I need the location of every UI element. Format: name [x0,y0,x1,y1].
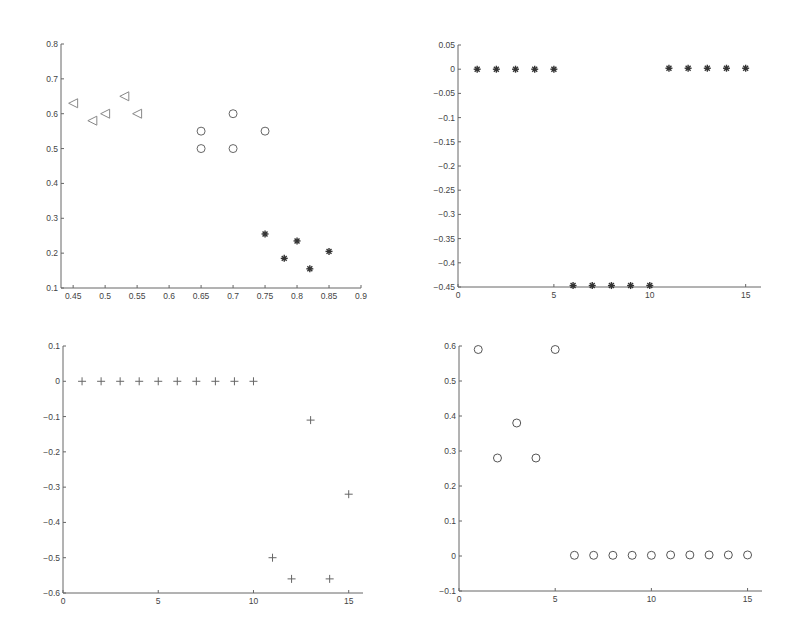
x-tick-label: 0.85 [321,291,338,301]
circle-marker-icon [513,419,521,427]
y-tick-label: 0.4 [444,411,456,421]
series-cluster-2 [197,110,269,153]
x-tick-label: 0.6 [163,291,175,301]
plus-marker-icon [78,377,86,385]
x-tick-label: 15 [344,596,354,606]
y-tick-label: 0.5 [444,376,456,386]
plus-marker-icon [307,416,315,424]
circle-marker-icon [197,145,205,153]
x-tick-label: 5 [552,290,557,300]
subplot-top-right: −0.45−0.4−0.35−0.3−0.25−0.2−0.15−0.1−0.0… [433,40,761,300]
series-values [78,377,353,583]
y-tick-label: −0.1 [43,412,60,422]
star-marker-icon [550,66,557,73]
y-tick-label: 0.1 [444,516,456,526]
star-marker-icon [531,66,538,73]
y-tick-label: −0.4 [43,517,60,527]
circle-marker-icon [590,551,598,559]
x-tick-label: 5 [156,596,161,606]
x-tick-label: 0.65 [193,291,210,301]
y-tick-label: 0.7 [46,74,58,84]
y-tick-label: 0 [450,64,455,74]
y-tick-label: −0.45 [433,282,455,292]
plus-marker-icon [230,377,238,385]
series-values [474,65,749,289]
circle-marker-icon [551,346,559,354]
x-tick-label: 0.7 [227,291,239,301]
subplot-bottom-right: −0.100.10.20.30.40.50.6051015 [439,341,762,604]
triangle-left-marker-icon [69,99,78,108]
star-marker-icon [294,237,301,244]
y-tick-label: 0.8 [46,39,58,49]
y-tick-label: −0.2 [438,161,455,171]
y-tick-label: 0.5 [46,144,58,154]
x-tick-label: 0.5 [99,291,111,301]
y-tick-label: −0.05 [433,88,455,98]
x-tick-label: 0 [61,596,66,606]
y-tick-label: −0.4 [438,258,455,268]
subplot-bottom-left: −0.6−0.5−0.4−0.3−0.2−0.100.1051015 [43,341,363,606]
circle-marker-icon [609,551,617,559]
y-tick-label: −0.2 [43,447,60,457]
x-tick-label: 0 [456,290,461,300]
x-tick-label: 0.45 [65,291,82,301]
plus-marker-icon [173,377,181,385]
star-marker-icon [570,282,577,289]
plus-marker-icon [345,490,353,498]
x-tick-label: 15 [741,290,751,300]
x-tick-label: 0.75 [257,291,274,301]
y-tick-label: 0.2 [444,481,456,491]
plus-marker-icon [192,377,200,385]
y-tick-label: −0.3 [438,209,455,219]
y-tick-label: −0.6 [43,588,60,598]
y-tick-label: 0.4 [46,178,58,188]
plus-marker-icon [269,554,277,562]
circle-marker-icon [474,346,482,354]
circle-marker-icon [628,551,636,559]
y-tick-label: 0.1 [48,341,60,351]
circle-marker-icon [744,551,752,559]
circle-marker-icon [229,145,237,153]
plus-marker-icon [288,575,296,583]
star-marker-icon [306,265,313,272]
y-tick-label: −0.15 [433,137,455,147]
y-tick-label: 0.6 [46,109,58,119]
x-tick-label: 5 [553,594,558,604]
series-cluster-3 [262,230,333,272]
circle-marker-icon [532,454,540,462]
plus-marker-icon [249,377,257,385]
circle-marker-icon [197,127,205,135]
figure-canvas: 0.10.20.30.40.50.60.70.80.450.50.550.60.… [0,0,794,634]
star-marker-icon [685,65,692,72]
star-marker-icon [627,282,634,289]
star-marker-icon [262,230,269,237]
x-tick-label: 0.8 [291,291,303,301]
star-marker-icon [665,65,672,72]
circle-marker-icon [647,551,655,559]
series-values [474,346,751,560]
circle-marker-icon [229,110,237,118]
y-tick-label: −0.1 [439,586,456,596]
circle-marker-icon [570,551,578,559]
y-tick-label: 0.6 [444,341,456,351]
x-tick-label: 10 [647,594,657,604]
plus-marker-icon [211,377,219,385]
star-marker-icon [326,248,333,255]
star-marker-icon [474,66,481,73]
star-marker-icon [704,65,711,72]
series-cluster-1 [69,92,142,125]
star-marker-icon [608,282,615,289]
star-marker-icon [493,66,500,73]
star-marker-icon [512,66,519,73]
plus-marker-icon [154,377,162,385]
star-marker-icon [723,65,730,72]
triangle-left-marker-icon [133,109,142,118]
x-tick-label: 10 [645,290,655,300]
y-tick-label: 0.1 [46,283,58,293]
star-marker-icon [742,65,749,72]
y-tick-label: 0.3 [444,446,456,456]
figure: 0.10.20.30.40.50.60.70.80.450.50.550.60.… [0,0,794,634]
y-tick-label: 0 [55,376,60,386]
circle-marker-icon [705,551,713,559]
y-tick-label: −0.5 [43,553,60,563]
